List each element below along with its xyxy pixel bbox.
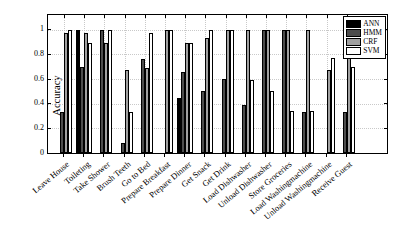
y-tick-label: 0.6: [16, 74, 44, 83]
bar-svm: [310, 111, 314, 153]
legend: ANN HMM CRF SVM: [343, 16, 386, 59]
y-tick-mark: [48, 29, 51, 30]
x-tick-mark: [305, 154, 306, 157]
x-tick-mark: [326, 154, 327, 157]
ann-color-swatch: [346, 20, 361, 28]
bar-svm: [209, 30, 213, 153]
y-tick-mark: [48, 128, 51, 129]
x-tick-mark: [204, 154, 205, 157]
legend-entry-svm: SVM: [346, 47, 382, 55]
y-gridline: [48, 54, 387, 55]
x-tick-mark-top: [165, 15, 166, 18]
bar-svm: [68, 30, 72, 153]
x-tick-mark: [245, 154, 246, 157]
legend-entry-ann: ANN: [346, 20, 382, 28]
x-tick-mark: [103, 154, 104, 157]
y-tick-label: 0.2: [16, 123, 44, 132]
legend-label-svm: SVM: [363, 47, 379, 55]
x-tick-mark-top: [185, 15, 186, 18]
x-tick-mark: [265, 154, 266, 157]
y-tick-mark: [48, 54, 51, 55]
y-tick-mark: [384, 103, 387, 104]
svm-color-swatch: [346, 47, 361, 55]
x-tick-mark-top: [226, 15, 227, 18]
legend-entry-hmm: HMM: [346, 29, 382, 37]
y-gridline: [48, 104, 387, 105]
legend-entry-crf: CRF: [346, 38, 382, 46]
bar-svm: [189, 43, 193, 153]
x-tick-mark-top: [64, 15, 65, 18]
x-tick-mark: [285, 154, 286, 157]
bar-svm: [250, 80, 254, 153]
y-gridline: [48, 128, 387, 129]
y-tick-label: 0.8: [16, 49, 44, 58]
y-tick-mark: [384, 79, 387, 80]
bar-svm: [129, 112, 133, 153]
x-tick-mark-top: [306, 15, 307, 18]
bar-svm: [108, 30, 112, 153]
bar-svm: [169, 30, 173, 153]
x-tick-mark-top: [125, 15, 126, 18]
y-gridline: [48, 30, 387, 31]
x-tick-mark-top: [266, 15, 267, 18]
y-tick-mark: [48, 103, 51, 104]
x-tick-mark: [346, 154, 347, 157]
bar-chart-figure: ANN HMM CRF SVM Accuracy 00.20.40.60.81L…: [0, 0, 400, 240]
y-tick-label: 1: [16, 24, 44, 33]
x-tick-mark-top: [246, 15, 247, 18]
x-tick-mark-top: [205, 15, 206, 18]
y-tick-label: 0.4: [16, 98, 44, 107]
x-tick-mark-top: [327, 15, 328, 18]
legend-label-crf: CRF: [363, 38, 377, 46]
bar-svm: [331, 58, 335, 153]
x-tick-mark: [83, 154, 84, 157]
bar-svm: [230, 30, 234, 153]
x-tick-mark: [124, 154, 125, 157]
x-tick-mark: [63, 154, 64, 157]
x-tick-mark: [225, 154, 226, 157]
bar-svm: [351, 67, 355, 153]
x-tick-mark-top: [145, 15, 146, 18]
x-tick-mark: [164, 154, 165, 157]
x-tick-mark-top: [104, 15, 105, 18]
y-gridline: [48, 79, 387, 80]
plot-area: ANN HMM CRF SVM Accuracy: [47, 14, 388, 154]
y-tick-label: 0: [16, 148, 44, 157]
legend-label-hmm: HMM: [363, 29, 382, 37]
y-tick-mark: [384, 128, 387, 129]
legend-label-ann: ANN: [363, 20, 379, 28]
bar-svm: [270, 91, 274, 153]
x-tick-mark-top: [286, 15, 287, 18]
bar-svm: [149, 33, 153, 153]
x-tick-mark-top: [84, 15, 85, 18]
x-tick-mark: [144, 154, 145, 157]
bar-svm: [88, 43, 92, 153]
crf-color-swatch: [346, 38, 361, 46]
y-tick-mark: [48, 79, 51, 80]
bar-svm: [290, 111, 294, 153]
hmm-color-swatch: [346, 29, 361, 37]
x-tick-mark: [184, 154, 185, 157]
